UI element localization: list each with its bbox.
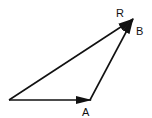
vector-b-arrow (90, 19, 133, 100)
label-b: B (136, 25, 143, 37)
vector-r-arrow (9, 19, 133, 100)
label-r: R (116, 7, 124, 19)
label-a: A (82, 106, 90, 118)
vector-triangle-diagram: R B A (0, 0, 152, 118)
